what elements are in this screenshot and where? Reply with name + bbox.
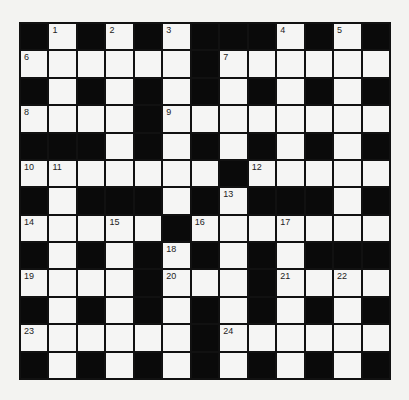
letter-cell[interactable]: 9 bbox=[163, 106, 189, 131]
letter-cell[interactable] bbox=[49, 106, 75, 131]
letter-cell[interactable] bbox=[220, 79, 246, 104]
letter-cell[interactable] bbox=[49, 51, 75, 76]
letter-cell[interactable] bbox=[306, 161, 332, 186]
letter-cell[interactable] bbox=[306, 270, 332, 295]
letter-cell[interactable] bbox=[78, 270, 104, 295]
letter-cell[interactable] bbox=[78, 106, 104, 131]
letter-cell[interactable] bbox=[249, 216, 275, 241]
letter-cell[interactable] bbox=[334, 106, 360, 131]
letter-cell[interactable]: 16 bbox=[192, 216, 218, 241]
letter-cell[interactable] bbox=[334, 79, 360, 104]
letter-cell[interactable] bbox=[249, 51, 275, 76]
letter-cell[interactable] bbox=[106, 298, 132, 323]
letter-cell[interactable]: 20 bbox=[163, 270, 189, 295]
letter-cell[interactable] bbox=[277, 243, 303, 268]
letter-cell[interactable] bbox=[135, 325, 161, 350]
letter-cell[interactable] bbox=[334, 188, 360, 213]
letter-cell[interactable]: 3 bbox=[163, 24, 189, 49]
letter-cell[interactable]: 17 bbox=[277, 216, 303, 241]
letter-cell[interactable] bbox=[49, 298, 75, 323]
letter-cell[interactable]: 7 bbox=[220, 51, 246, 76]
letter-cell[interactable] bbox=[334, 134, 360, 159]
letter-cell[interactable] bbox=[363, 161, 389, 186]
letter-cell[interactable] bbox=[49, 325, 75, 350]
letter-cell[interactable]: 2 bbox=[106, 24, 132, 49]
letter-cell[interactable]: 13 bbox=[220, 188, 246, 213]
letter-cell[interactable] bbox=[106, 353, 132, 378]
letter-cell[interactable] bbox=[334, 161, 360, 186]
letter-cell[interactable] bbox=[277, 161, 303, 186]
letter-cell[interactable] bbox=[277, 51, 303, 76]
letter-cell[interactable] bbox=[277, 79, 303, 104]
letter-cell[interactable] bbox=[106, 243, 132, 268]
letter-cell[interactable] bbox=[163, 298, 189, 323]
letter-cell[interactable] bbox=[163, 188, 189, 213]
letter-cell[interactable] bbox=[106, 325, 132, 350]
letter-cell[interactable]: 10 bbox=[21, 161, 47, 186]
letter-cell[interactable] bbox=[49, 353, 75, 378]
letter-cell[interactable] bbox=[220, 270, 246, 295]
letter-cell[interactable] bbox=[306, 216, 332, 241]
letter-cell[interactable] bbox=[334, 298, 360, 323]
letter-cell[interactable] bbox=[363, 51, 389, 76]
letter-cell[interactable] bbox=[135, 216, 161, 241]
letter-cell[interactable]: 8 bbox=[21, 106, 47, 131]
letter-cell[interactable] bbox=[363, 216, 389, 241]
letter-cell[interactable]: 24 bbox=[220, 325, 246, 350]
letter-cell[interactable] bbox=[49, 188, 75, 213]
letter-cell[interactable]: 18 bbox=[163, 243, 189, 268]
letter-cell[interactable] bbox=[49, 216, 75, 241]
letter-cell[interactable] bbox=[220, 243, 246, 268]
letter-cell[interactable] bbox=[306, 51, 332, 76]
letter-cell[interactable] bbox=[277, 106, 303, 131]
letter-cell[interactable] bbox=[163, 79, 189, 104]
letter-cell[interactable] bbox=[106, 79, 132, 104]
letter-cell[interactable] bbox=[306, 325, 332, 350]
letter-cell[interactable] bbox=[220, 298, 246, 323]
letter-cell[interactable] bbox=[277, 298, 303, 323]
letter-cell[interactable] bbox=[220, 216, 246, 241]
letter-cell[interactable] bbox=[106, 51, 132, 76]
letter-cell[interactable] bbox=[106, 161, 132, 186]
letter-cell[interactable]: 11 bbox=[49, 161, 75, 186]
letter-cell[interactable] bbox=[363, 106, 389, 131]
letter-cell[interactable] bbox=[306, 106, 332, 131]
letter-cell[interactable] bbox=[334, 353, 360, 378]
letter-cell[interactable] bbox=[220, 106, 246, 131]
letter-cell[interactable]: 19 bbox=[21, 270, 47, 295]
letter-cell[interactable] bbox=[363, 325, 389, 350]
letter-cell[interactable] bbox=[277, 353, 303, 378]
letter-cell[interactable] bbox=[163, 353, 189, 378]
letter-cell[interactable] bbox=[49, 243, 75, 268]
letter-cell[interactable]: 6 bbox=[21, 51, 47, 76]
letter-cell[interactable]: 12 bbox=[249, 161, 275, 186]
letter-cell[interactable] bbox=[78, 161, 104, 186]
letter-cell[interactable] bbox=[163, 134, 189, 159]
letter-cell[interactable] bbox=[249, 325, 275, 350]
letter-cell[interactable] bbox=[249, 106, 275, 131]
letter-cell[interactable]: 1 bbox=[49, 24, 75, 49]
letter-cell[interactable]: 21 bbox=[277, 270, 303, 295]
letter-cell[interactable]: 14 bbox=[21, 216, 47, 241]
letter-cell[interactable] bbox=[49, 79, 75, 104]
letter-cell[interactable] bbox=[106, 270, 132, 295]
letter-cell[interactable]: 23 bbox=[21, 325, 47, 350]
letter-cell[interactable] bbox=[334, 325, 360, 350]
letter-cell[interactable] bbox=[78, 51, 104, 76]
letter-cell[interactable] bbox=[192, 106, 218, 131]
letter-cell[interactable]: 4 bbox=[277, 24, 303, 49]
letter-cell[interactable] bbox=[334, 51, 360, 76]
letter-cell[interactable] bbox=[135, 161, 161, 186]
letter-cell[interactable] bbox=[106, 106, 132, 131]
letter-cell[interactable]: 5 bbox=[334, 24, 360, 49]
letter-cell[interactable] bbox=[78, 325, 104, 350]
letter-cell[interactable] bbox=[220, 134, 246, 159]
letter-cell[interactable]: 15 bbox=[106, 216, 132, 241]
letter-cell[interactable] bbox=[135, 51, 161, 76]
letter-cell[interactable] bbox=[277, 134, 303, 159]
letter-cell[interactable] bbox=[49, 270, 75, 295]
letter-cell[interactable] bbox=[220, 353, 246, 378]
letter-cell[interactable] bbox=[277, 325, 303, 350]
letter-cell[interactable] bbox=[192, 270, 218, 295]
letter-cell[interactable] bbox=[163, 325, 189, 350]
